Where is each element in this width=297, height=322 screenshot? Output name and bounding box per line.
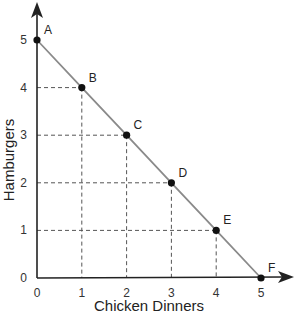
- data-point-d: [168, 179, 175, 186]
- point-label-b: B: [89, 71, 97, 85]
- x-axis: [37, 277, 284, 278]
- x-tick-label: 1: [78, 286, 85, 300]
- y-tick-label: 4: [20, 81, 27, 95]
- axes: [31, 2, 294, 283]
- point-label-f: F: [268, 261, 275, 275]
- y-tick-label: 3: [20, 128, 27, 142]
- point-label-d: D: [178, 166, 187, 180]
- data-point-b: [78, 84, 85, 91]
- point-label-a: A: [44, 23, 52, 37]
- y-axis-label: Hamburgers: [0, 119, 17, 202]
- x-tick-label: 4: [213, 286, 220, 300]
- point-label-c: C: [134, 118, 143, 132]
- point-label-e: E: [223, 213, 231, 227]
- dashed-guides: [37, 88, 216, 278]
- y-tick-label: 1: [20, 223, 27, 237]
- data-point-c: [123, 132, 130, 139]
- y-tick-label: 0: [20, 271, 27, 285]
- y-tick-label: 5: [20, 33, 27, 47]
- y-tick-labels: 012345: [20, 33, 27, 285]
- ppf-chart: 012345 012345 ABCDEF Chicken Dinners Ham…: [0, 0, 297, 322]
- y-tick-label: 2: [20, 176, 27, 190]
- x-axis-label: Chicken Dinners: [94, 297, 204, 314]
- data-point-e: [213, 227, 220, 234]
- ppf-line: [37, 40, 261, 278]
- x-tick-label: 5: [258, 286, 265, 300]
- data-points: ABCDEF: [33, 23, 275, 282]
- data-point-a: [33, 36, 40, 43]
- x-tick-label: 0: [34, 286, 41, 300]
- data-point-f: [257, 274, 264, 281]
